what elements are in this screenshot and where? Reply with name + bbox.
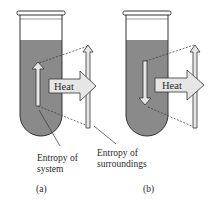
caption-b: (b): [143, 184, 154, 195]
heat-label-a: Heat: [54, 81, 74, 92]
pointer-surroundings: [94, 126, 116, 144]
panel-b: Heat Entropy of surroundings (b): [97, 11, 204, 195]
heat-label-b: Heat: [162, 80, 182, 91]
test-tube-lip-b: [123, 11, 171, 15]
test-tube-lip-a: [17, 11, 65, 15]
caption-a: (a): [36, 184, 47, 195]
surroundings-label-line2: surroundings: [97, 159, 147, 169]
surroundings-label-line1: Entropy of: [97, 148, 139, 158]
system-label-line2: system: [37, 164, 64, 174]
entropy-diagram: Heat Entropy of system (a) Heat Entropy …: [0, 0, 210, 205]
system-label-line1: Entropy of: [37, 153, 79, 163]
